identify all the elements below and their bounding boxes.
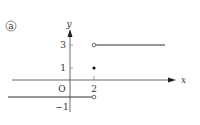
open-point-lower — [92, 95, 96, 99]
y-axis-arrow-icon — [68, 29, 73, 37]
closed-point — [92, 66, 95, 69]
y-tick-label-neg1: −1 — [55, 102, 68, 112]
origin-label: O — [58, 84, 65, 94]
x-axis-arrow-icon — [168, 78, 176, 83]
x-tick-label-2: 2 — [91, 84, 97, 94]
y-tick-label-1: 1 — [60, 63, 66, 73]
piecewise-graph: a x y O 3 1 −1 2 — [0, 0, 200, 125]
figure-label: a — [8, 21, 14, 31]
open-point-upper — [92, 43, 96, 47]
y-tick-label-3: 3 — [60, 40, 66, 50]
x-axis-label: x — [181, 75, 186, 85]
y-axis-label: y — [65, 19, 72, 29]
